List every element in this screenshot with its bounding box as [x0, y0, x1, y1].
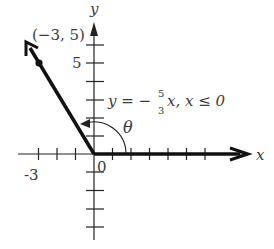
y-axis-arrow-icon [90, 22, 98, 36]
svg-text:x, x ≤ 0: x, x ≤ 0 [167, 92, 226, 110]
y-axis-label: y [89, 0, 99, 18]
ray-equation: y = − 5 3 x, x ≤ 0 [107, 88, 226, 116]
theta-label: θ [123, 118, 133, 137]
svg-text:y = −: y = − [107, 92, 151, 110]
point-marker [35, 59, 42, 66]
y-tick-label: 5 [72, 54, 82, 72]
origin-label: 0 [97, 158, 107, 176]
coordinate-plane: y x 0 -3 5 (−3, 5) y = − 5 3 x, x ≤ 0 θ [0, 0, 274, 249]
y-axis-ticks [86, 45, 104, 227]
point-label: (−3, 5) [32, 26, 85, 44]
svg-text:3: 3 [158, 105, 164, 116]
angle-arc-arrow-icon [80, 119, 90, 128]
x-tick-label: -3 [24, 166, 39, 184]
x-axis-label: x [256, 146, 265, 164]
svg-text:5: 5 [158, 88, 164, 99]
